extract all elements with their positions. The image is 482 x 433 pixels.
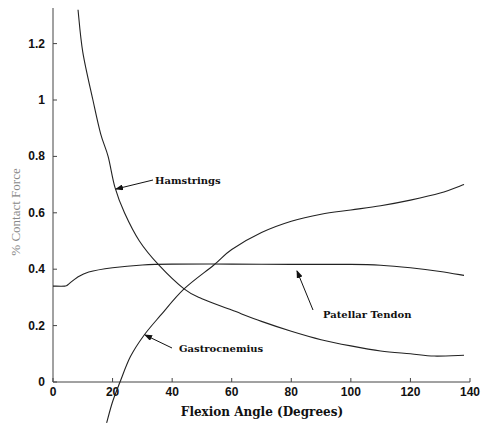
gastrocnemius-label: Gastrocnemius [179,343,264,354]
series-patellar-tendon [53,264,464,286]
y-tick-label: 1.2 [28,37,45,51]
y-tick-label: 0.8 [28,149,45,163]
curves [53,10,464,423]
x-tick-label: 100 [341,385,361,399]
axes: 02040608010012014000.20.40.60.811.2 [28,8,480,399]
y-tick-label: 0.6 [28,206,45,220]
y-tick-label: 0.4 [28,262,45,276]
series-hamstrings [78,10,464,356]
x-tick-label: 120 [400,385,420,399]
gastrocnemius-arrow-icon [145,335,172,348]
y-tick-label: 0.2 [28,319,45,333]
y-axis-title: % Contact Force [8,168,23,256]
x-tick-label: 60 [225,385,239,399]
patellar-arrow-icon [297,271,313,310]
x-tick-label: 140 [460,385,480,399]
contact-force-chart: 02040608010012014000.20.40.60.811.2 Hams… [0,0,482,433]
y-tick-label: 0 [38,375,45,389]
x-axis-title: Flexion Angle (Degrees) [181,405,343,419]
x-tick-label: 0 [50,385,57,399]
y-tick-label: 1 [38,93,45,107]
patellar-label: Patellar Tendon [323,309,412,320]
x-tick-label: 40 [165,385,179,399]
hamstrings-label: Hamstrings [155,175,221,186]
x-tick-label: 80 [285,385,299,399]
hamstrings-arrow-icon [116,180,153,189]
